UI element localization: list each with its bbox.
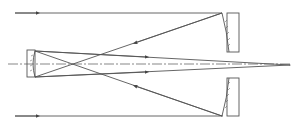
telescope-ray-diagram <box>0 0 294 131</box>
primary-mirror-upper <box>222 13 239 52</box>
primary-mirror-lower <box>222 78 239 116</box>
focal-point <box>289 64 290 65</box>
secondary-mirror <box>27 50 35 77</box>
